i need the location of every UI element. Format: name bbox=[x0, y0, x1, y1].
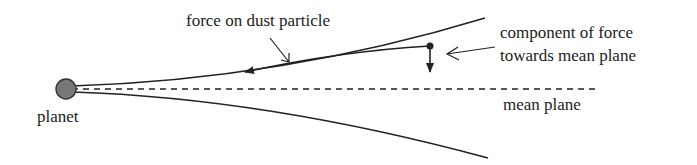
component-label-line1: component of force bbox=[500, 24, 633, 41]
force-label: force on dust particle bbox=[186, 12, 330, 29]
planet-label: planet bbox=[37, 108, 79, 125]
component-pointer bbox=[447, 47, 495, 60]
mean-plane-label: mean plane bbox=[503, 96, 581, 113]
force-arrow bbox=[245, 46, 430, 72]
planet-icon bbox=[56, 79, 76, 99]
force-pointer bbox=[270, 38, 289, 62]
component-label-line2: towards mean plane bbox=[500, 47, 636, 64]
lower-boundary-curve bbox=[72, 92, 488, 158]
